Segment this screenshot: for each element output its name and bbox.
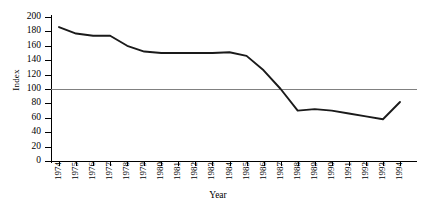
line-chart: Index 020406080100120140160180200 197419… xyxy=(0,0,426,210)
x-axis-title: Year xyxy=(0,190,426,200)
series-layer xyxy=(0,0,426,210)
x-axis-title-text: Year xyxy=(209,190,227,200)
index-series-line xyxy=(59,27,400,119)
